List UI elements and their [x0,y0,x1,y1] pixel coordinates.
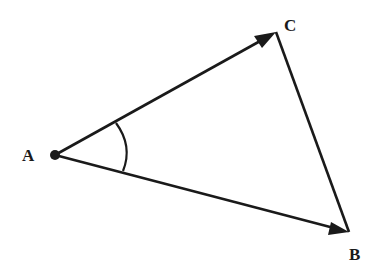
vector-ac [55,32,276,155]
vector-triangle-diagram: A C B [0,0,382,270]
label-c: C [284,16,296,35]
label-a: A [22,146,35,165]
arrowhead-c-icon [254,32,276,48]
point-a-dot [50,150,60,160]
angle-arc-icon [116,123,127,171]
vector-ab [55,155,349,235]
segment-cb [276,32,349,232]
label-b: B [349,245,360,264]
